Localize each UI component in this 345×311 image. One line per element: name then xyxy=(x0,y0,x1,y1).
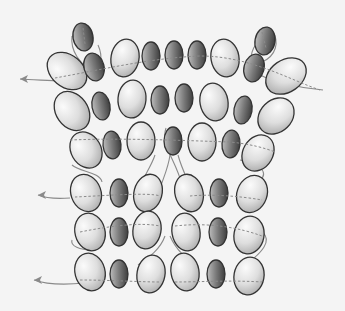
dark-bead xyxy=(221,129,241,158)
dark-bead xyxy=(90,91,113,122)
beads-group xyxy=(40,21,313,297)
dark-bead xyxy=(110,179,128,207)
dark-bead xyxy=(241,52,268,84)
arrow-left-icon xyxy=(38,191,46,199)
light-bead xyxy=(188,123,216,161)
light-bead xyxy=(197,81,231,123)
dark-bead xyxy=(232,95,255,126)
beadwork-diagram xyxy=(0,0,345,311)
dark-bead xyxy=(207,260,225,288)
light-bead xyxy=(236,129,281,177)
light-bead xyxy=(251,91,302,142)
light-bead xyxy=(47,85,97,138)
dark-bead xyxy=(151,86,169,114)
dark-bead xyxy=(110,260,128,288)
light-bead xyxy=(134,253,168,295)
direction-arrows xyxy=(20,75,46,284)
light-bead xyxy=(71,250,110,294)
light-bead xyxy=(168,251,202,293)
bead-pattern-svg xyxy=(0,0,345,311)
dark-bead xyxy=(164,127,182,155)
light-bead xyxy=(64,126,109,174)
light-bead xyxy=(127,122,155,160)
light-bead xyxy=(231,255,267,298)
light-bead xyxy=(65,170,106,216)
light-bead xyxy=(130,171,167,215)
light-bead xyxy=(169,211,203,253)
light-bead xyxy=(231,171,272,217)
dark-bead xyxy=(210,179,228,207)
dark-bead xyxy=(209,218,227,246)
arrow-left-icon xyxy=(34,276,42,284)
light-bead xyxy=(116,79,147,119)
light-bead xyxy=(108,37,142,79)
dark-bead xyxy=(175,84,193,112)
dark-bead xyxy=(102,130,122,159)
light-bead xyxy=(130,209,164,251)
dark-bead xyxy=(188,41,206,69)
dark-bead xyxy=(71,21,96,52)
dark-bead xyxy=(165,41,183,69)
dark-bead xyxy=(142,42,160,70)
light-bead xyxy=(171,171,208,215)
dark-bead xyxy=(110,218,128,246)
